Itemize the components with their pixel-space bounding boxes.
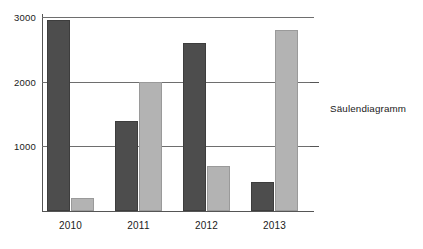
y-tick-label-1000: 1000	[14, 141, 36, 152]
bar-2012-dark-series[interactable]	[183, 43, 206, 211]
plot-area: 100020003000 2010201120122013	[42, 14, 314, 212]
bar-group-2012: 2012	[183, 14, 246, 211]
bar-2010-light-series[interactable]	[71, 198, 94, 211]
x-axis-line	[42, 211, 314, 212]
chart-figure: 100020003000 2010201120122013 Säulendiag…	[0, 0, 423, 249]
y-axis-line	[42, 14, 43, 212]
x-tick-label-2011: 2011	[127, 220, 149, 231]
bar-2013-light-series[interactable]	[275, 30, 298, 211]
x-tick-label-2012: 2012	[195, 220, 218, 231]
bar-2012-light-series[interactable]	[207, 166, 230, 211]
bar-2011-light-series[interactable]	[139, 82, 162, 211]
chart-caption: Säulendiagramm	[330, 103, 406, 114]
x-tick-label-2010: 2010	[59, 220, 82, 231]
x-tick-label-2013: 2013	[263, 220, 286, 231]
bar-group-2011: 2011	[115, 14, 178, 211]
y-tick-label-2000: 2000	[14, 76, 36, 87]
y-tick-label-3000: 3000	[14, 12, 36, 23]
bar-2011-dark-series[interactable]	[115, 121, 138, 211]
bar-group-2013: 2013	[251, 14, 314, 211]
bar-group-2010: 2010	[47, 14, 110, 211]
bar-2013-dark-series[interactable]	[251, 182, 274, 211]
bar-2010-dark-series[interactable]	[47, 20, 70, 211]
